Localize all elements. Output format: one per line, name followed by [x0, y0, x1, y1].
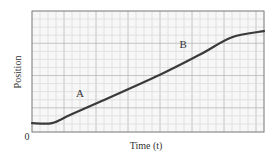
x-axis-label: Time (t): [130, 140, 163, 152]
origin-label: 0: [25, 131, 30, 142]
annotation-label-b: B: [180, 38, 187, 50]
plot-area: [32, 11, 264, 132]
annotation-label-a: A: [76, 87, 84, 99]
position-time-chart: AB 0 Time (t) Position: [0, 0, 277, 159]
y-axis-label: Position: [12, 56, 23, 89]
